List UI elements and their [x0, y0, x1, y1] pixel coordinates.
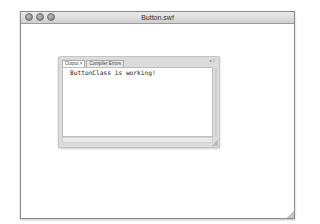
title-bar[interactable]: Button.swf [21, 12, 294, 24]
panel-tabs: Output × Compiler Errors [62, 60, 124, 67]
tab-compiler-errors[interactable]: Compiler Errors [86, 60, 124, 67]
panel-menu-icon[interactable]: ▸≡ [210, 58, 216, 63]
output-text: ButtonClass is working! [70, 69, 156, 76]
window-title: Button.swf [21, 12, 294, 23]
panel-resize-handle-icon[interactable] [212, 140, 218, 146]
swf-player-window: Button.swf Output × Compiler Errors ▸≡ B… [20, 11, 295, 219]
window-resize-handle-icon[interactable] [286, 210, 294, 218]
horizontal-scrollbar[interactable] [62, 137, 213, 143]
output-area[interactable]: ButtonClass is working! [62, 67, 213, 137]
vertical-scrollbar[interactable] [215, 67, 217, 137]
output-panel: Output × Compiler Errors ▸≡ ButtonClass … [58, 56, 220, 148]
tab-output[interactable]: Output × [62, 60, 85, 67]
